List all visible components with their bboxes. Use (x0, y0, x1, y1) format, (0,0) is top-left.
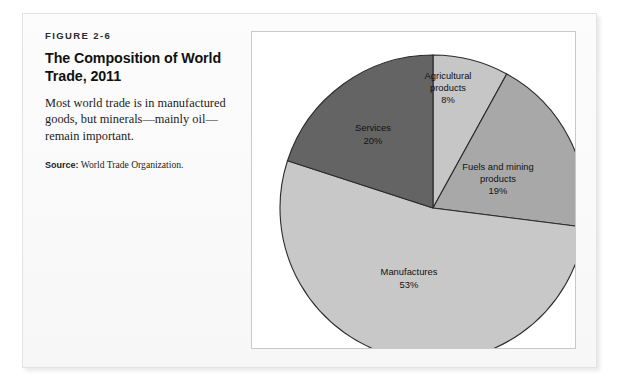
source-label: Source: (45, 160, 79, 170)
pie-slice-value: 19% (489, 185, 508, 196)
pie-slice-label: products (430, 82, 466, 93)
caption-column: FIGURE 2-6 The Composition of World Trad… (45, 30, 235, 172)
figure-card: FIGURE 2-6 The Composition of World Trad… (22, 13, 597, 368)
pie-slice-label: Services (355, 122, 391, 133)
source-text: World Trade Organization. (79, 159, 184, 170)
pie-slice-value: 20% (364, 135, 383, 146)
pie-slice-label: products (480, 173, 516, 184)
pie-chart-panel: Agriculturalproducts8%Fuels and miningpr… (251, 31, 576, 349)
pie-slice-value: 53% (400, 279, 419, 290)
pie-slices (280, 55, 575, 348)
figure-source: Source: World Trade Organization. (45, 158, 235, 172)
pie-slice-label: Manufactures (381, 266, 438, 277)
figure-description: Most world trade is in manufactured good… (45, 95, 235, 144)
pie-slice-label: Fuels and mining (462, 161, 533, 172)
pie-chart: Agriculturalproducts8%Fuels and miningpr… (252, 32, 575, 348)
pie-slice-label: Agricultural (425, 70, 472, 81)
figure-number: FIGURE 2-6 (45, 30, 235, 41)
figure-title: The Composition of World Trade, 2011 (45, 50, 235, 85)
pie-slice-value: 8% (441, 94, 455, 105)
